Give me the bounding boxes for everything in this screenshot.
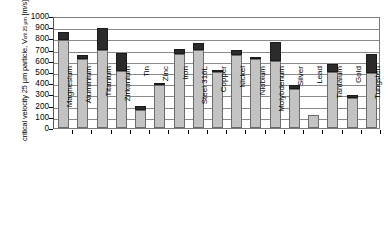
y-tick-label: 900 bbox=[19, 24, 49, 32]
x-tick-label: Iron bbox=[182, 66, 190, 136]
bar-segment-upper bbox=[174, 49, 185, 55]
y-tick-mark bbox=[49, 129, 53, 130]
bar-segment-upper bbox=[97, 28, 108, 50]
x-tick-label: Magnesium bbox=[66, 66, 74, 136]
y-tick-label: 500 bbox=[19, 69, 49, 77]
y-tick-label: 600 bbox=[19, 58, 49, 66]
x-tick-label: Aluminium bbox=[85, 66, 93, 136]
y-tick-label: 200 bbox=[19, 103, 49, 111]
bar-segment-upper bbox=[270, 42, 281, 61]
y-tick-label: 0 bbox=[19, 125, 49, 133]
x-tick-label: Niobium bbox=[259, 66, 267, 136]
x-tick-label: Steel 316L bbox=[201, 66, 209, 136]
x-tick-label: Tantalum bbox=[336, 66, 344, 136]
y-tick-label: 100 bbox=[19, 114, 49, 122]
plot-area bbox=[53, 17, 380, 129]
x-tick-label: Nickel bbox=[239, 66, 247, 136]
y-tick-label: 700 bbox=[19, 47, 49, 55]
x-tick-label: Tin bbox=[143, 66, 151, 136]
y-tick-label: 400 bbox=[19, 80, 49, 88]
x-tick-label: Tungsten bbox=[374, 66, 382, 136]
bar-segment-upper bbox=[58, 32, 69, 39]
x-tick-label: Zirkonium bbox=[124, 66, 132, 136]
y-tick-label: 1000 bbox=[19, 13, 49, 21]
x-tick-label: Silver bbox=[297, 66, 305, 136]
y-tick-label: 800 bbox=[19, 35, 49, 43]
x-tick-label: Copper bbox=[220, 66, 228, 136]
x-tick-label: Zinc bbox=[162, 66, 170, 136]
bar-segment-upper bbox=[77, 55, 88, 59]
bar-segment-upper bbox=[231, 50, 242, 55]
bar-segment-upper bbox=[193, 43, 204, 50]
x-tick-label: Lead bbox=[316, 66, 324, 136]
x-tick-label: Gold bbox=[355, 66, 363, 136]
y-tick-label: 300 bbox=[19, 91, 49, 99]
x-tick-label: Titanium bbox=[105, 66, 113, 136]
chart-root: critical velocity 25 µm particle, Vcrit … bbox=[0, 0, 388, 236]
bar-segment-upper bbox=[250, 57, 261, 59]
x-tick-label: Molybdenum bbox=[278, 66, 286, 136]
